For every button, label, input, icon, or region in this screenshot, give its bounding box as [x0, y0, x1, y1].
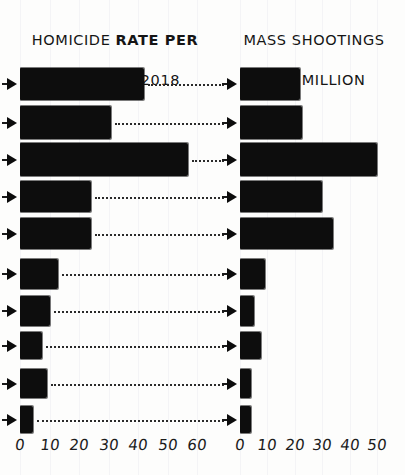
- chart-row: [228, 106, 405, 139]
- chart-row: [228, 181, 405, 212]
- bar[interactable]: [20, 106, 111, 139]
- chart-row: [0, 181, 228, 212]
- bar[interactable]: [20, 369, 47, 398]
- right-triangle-arrow-icon: [227, 228, 237, 240]
- axis-tick-label: 50: [366, 436, 387, 454]
- axis-tick-label: 20: [68, 436, 89, 454]
- right-triangle-arrow-icon: [7, 78, 17, 90]
- title-word: PER: [165, 32, 199, 48]
- right-triangle-arrow-icon: [227, 305, 237, 317]
- right-triangle-arrow-icon: [227, 154, 237, 166]
- dotted-leader-line: [51, 384, 224, 386]
- chart-row: [0, 218, 228, 249]
- chart-row: [228, 259, 405, 289]
- bar[interactable]: [20, 143, 188, 176]
- bar[interactable]: [20, 259, 58, 289]
- dual-bar-chart: HOMICIDE RATE PER 100,000 IN 2018 MASS S…: [0, 0, 405, 475]
- chart-row: [0, 143, 228, 176]
- bar[interactable]: [20, 181, 91, 212]
- axis-tick-label: 20: [284, 436, 305, 454]
- chart-row: [228, 68, 405, 100]
- chart-row: [0, 406, 228, 433]
- left-title-line-1: HOMICIDE RATE PER: [4, 30, 226, 50]
- right-triangle-arrow-icon: [227, 191, 237, 203]
- right-triangle-arrow-icon: [227, 340, 237, 352]
- title-word: RATE: [116, 32, 165, 48]
- bar[interactable]: [20, 332, 42, 359]
- axis-tick-label: 0: [234, 436, 246, 454]
- right-plot-area: [228, 62, 405, 434]
- right-title-line-1: MASS SHOOTINGS: [228, 30, 400, 50]
- bar[interactable]: [240, 143, 377, 176]
- right-triangle-arrow-icon: [7, 228, 17, 240]
- right-triangle-arrow-icon: [227, 268, 237, 280]
- bar[interactable]: [240, 68, 300, 100]
- bar[interactable]: [240, 106, 302, 139]
- right-triangle-arrow-icon: [7, 378, 17, 390]
- title-word: HOMICIDE: [32, 32, 116, 48]
- axis-tick-label: 0: [14, 436, 26, 454]
- dotted-leader-line: [115, 123, 224, 125]
- left-plot-area: [0, 62, 228, 434]
- right-triangle-arrow-icon: [227, 78, 237, 90]
- dotted-leader-line: [54, 311, 224, 313]
- bar[interactable]: [240, 296, 254, 326]
- right-triangle-arrow-icon: [7, 191, 17, 203]
- right-triangle-arrow-icon: [7, 268, 17, 280]
- chart-row: [0, 68, 228, 100]
- right-triangle-arrow-icon: [7, 414, 17, 426]
- chart-row: [228, 143, 405, 176]
- axis-tick-label: 30: [98, 436, 119, 454]
- axis-tick-label: 10: [39, 436, 60, 454]
- dotted-leader-line: [46, 346, 224, 348]
- chart-row: [0, 296, 228, 326]
- chart-row: [228, 332, 405, 359]
- chart-row: [0, 106, 228, 139]
- bar[interactable]: [20, 68, 144, 100]
- axis-tick-label: 30: [312, 436, 333, 454]
- right-triangle-arrow-icon: [227, 414, 237, 426]
- bar[interactable]: [20, 406, 33, 433]
- dotted-leader-line: [95, 197, 224, 199]
- bar[interactable]: [240, 218, 333, 249]
- axis-tick-label: 40: [127, 436, 148, 454]
- axis-tick-label: 50: [157, 436, 178, 454]
- right-triangle-arrow-icon: [7, 154, 17, 166]
- right-triangle-arrow-icon: [7, 305, 17, 317]
- chart-row: [0, 332, 228, 359]
- dotted-leader-line: [148, 84, 224, 86]
- chart-row: [228, 218, 405, 249]
- dotted-leader-line: [192, 160, 224, 162]
- bar[interactable]: [240, 181, 322, 212]
- axis-tick-label: 10: [257, 436, 278, 454]
- bar[interactable]: [240, 369, 251, 398]
- bar[interactable]: [20, 296, 50, 326]
- dotted-leader-line: [95, 234, 224, 236]
- dotted-leader-line: [62, 274, 224, 276]
- right-triangle-arrow-icon: [7, 340, 17, 352]
- axis-tick-label: 40: [339, 436, 360, 454]
- axis-tick-label: 60: [186, 436, 207, 454]
- chart-row: [0, 369, 228, 398]
- dotted-leader-line: [37, 420, 224, 422]
- right-triangle-arrow-icon: [227, 378, 237, 390]
- chart-row: [228, 369, 405, 398]
- bar[interactable]: [240, 406, 251, 433]
- bar[interactable]: [240, 259, 265, 289]
- chart-row: [228, 296, 405, 326]
- right-triangle-arrow-icon: [227, 117, 237, 129]
- left-axis-tick-labels: 0102030405060: [0, 436, 228, 464]
- right-triangle-arrow-icon: [7, 117, 17, 129]
- chart-row: [0, 259, 228, 289]
- bar[interactable]: [240, 332, 261, 359]
- chart-row: [228, 406, 405, 433]
- bar[interactable]: [20, 218, 91, 249]
- right-axis-tick-labels: 01020304050: [228, 436, 405, 464]
